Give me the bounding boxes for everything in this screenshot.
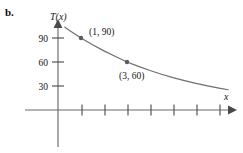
point-label-1-90: (1, 90)	[89, 27, 114, 38]
data-point-3-60	[125, 60, 129, 64]
graph-svg: 90 60 30 T(x) x (1, 90) (3, 60)	[0, 0, 243, 153]
figure-panel: b. 90 60 30 T(x) x	[0, 0, 243, 153]
y-tick-label-30: 30	[39, 82, 49, 92]
point-label-3-60: (3, 60)	[119, 71, 144, 82]
y-tick-label-90: 90	[39, 34, 49, 44]
x-axis-arrowhead	[228, 106, 237, 115]
y-tick-label-60: 60	[39, 58, 49, 68]
data-point-1-90	[79, 36, 83, 40]
x-axis-title: x	[223, 91, 229, 102]
y-axis-title: T(x)	[50, 11, 67, 23]
